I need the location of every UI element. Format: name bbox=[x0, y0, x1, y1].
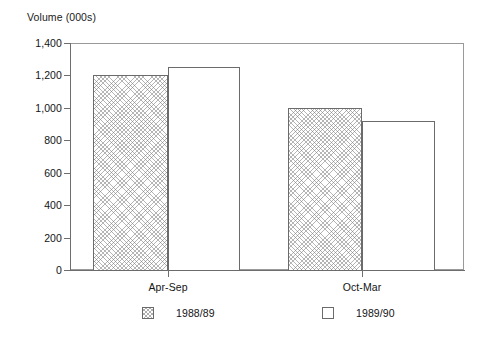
y-axis-tick bbox=[64, 108, 71, 109]
bar-apr-sep-1989-90 bbox=[168, 67, 240, 271]
y-axis-tick bbox=[64, 173, 71, 174]
y-axis-tick bbox=[64, 43, 71, 44]
legend-label: 1988/89 bbox=[176, 307, 215, 319]
bar-oct-mar-1988-89 bbox=[288, 108, 362, 271]
x-axis-category-label: Apr-Sep bbox=[148, 281, 187, 293]
y-axis-tick-label-text: 800 bbox=[22, 134, 62, 146]
legend-label: 1989/90 bbox=[356, 307, 395, 319]
legend-entry-1989-90: 1989/90 bbox=[322, 305, 395, 321]
legend-entry-1988-89: 1988/89 bbox=[142, 305, 215, 321]
y-axis-tick bbox=[64, 140, 71, 141]
y-axis-tick-label-text: 400 bbox=[22, 199, 62, 211]
y-axis-tick-label-text: 600 bbox=[22, 167, 62, 179]
y-axis-tick-label: 1,400 bbox=[18, 37, 62, 49]
y-axis-tick-label-text: 1,200 bbox=[22, 69, 62, 81]
y-axis-title: Volume (000s) bbox=[27, 11, 96, 23]
chart-legend: 1988/891989/90 bbox=[0, 303, 486, 325]
x-axis-tick bbox=[168, 270, 169, 277]
y-axis-tick-label: 400 bbox=[18, 199, 62, 211]
y-axis-tick-label: 600 bbox=[18, 167, 62, 179]
y-axis-tick-label-text: 1,400 bbox=[22, 37, 62, 49]
y-axis-tick bbox=[64, 238, 71, 239]
y-axis-tick-label-text: 200 bbox=[22, 232, 62, 244]
bar-apr-sep-1988-89 bbox=[93, 75, 168, 271]
y-axis-tick bbox=[64, 75, 71, 76]
chart-screenshot: Volume (000s) 02004006008001,0001,2001,4… bbox=[0, 0, 486, 338]
legend-swatch-icon bbox=[322, 307, 334, 319]
y-axis-tick-label-text: 0 bbox=[22, 264, 62, 276]
y-axis-tick bbox=[64, 270, 71, 271]
x-axis-tick bbox=[362, 270, 363, 277]
y-axis-tick-label: 200 bbox=[18, 232, 62, 244]
x-axis-category-label: Oct-Mar bbox=[343, 281, 382, 293]
bar-oct-mar-1989-90 bbox=[362, 121, 435, 271]
y-axis-tick bbox=[64, 205, 71, 206]
legend-swatch-icon bbox=[142, 307, 154, 319]
y-axis-tick-label-text: 1,000 bbox=[22, 102, 62, 114]
y-axis-tick-label: 1,200 bbox=[18, 69, 62, 81]
y-axis-tick-label: 800 bbox=[18, 134, 62, 146]
y-axis-tick-label: 1,000 bbox=[18, 102, 62, 114]
y-axis-tick-label: 0 bbox=[18, 264, 62, 276]
